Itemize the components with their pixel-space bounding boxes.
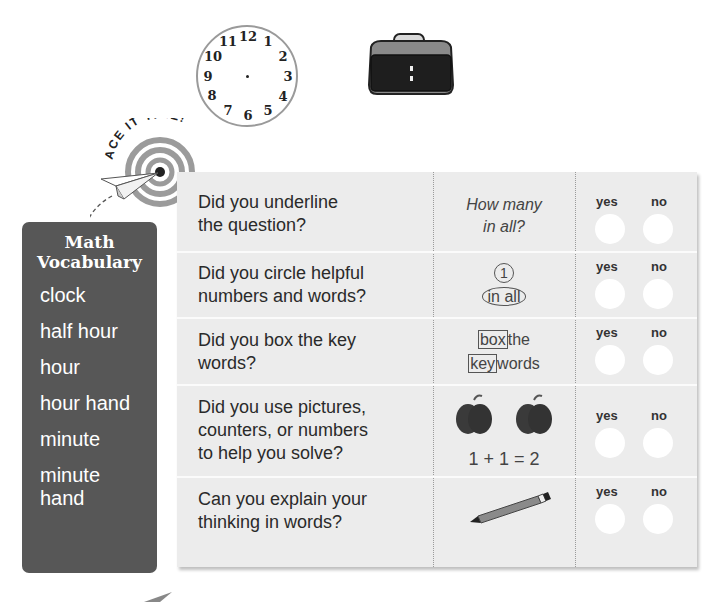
- digital-clock-icon: [365, 33, 457, 97]
- vocab-term-hour: hour: [40, 356, 157, 379]
- hint-example: How many in all?: [433, 194, 575, 238]
- digital-clock: [365, 33, 457, 97]
- hint-example: [433, 488, 575, 534]
- question-line: numbers and words?: [198, 285, 366, 308]
- no-circle[interactable]: [643, 214, 673, 244]
- yes-no-group: yes no: [575, 253, 697, 319]
- self-check-table: Did you underline the question? How many…: [177, 172, 697, 567]
- no-circle[interactable]: [643, 428, 673, 458]
- yes-circle[interactable]: [595, 428, 625, 458]
- question-line: thinking in words?: [198, 511, 367, 534]
- table-row: Can you explain your thinking in words? …: [177, 478, 697, 567]
- clock-center-dot: [246, 75, 249, 78]
- question-line: words?: [198, 352, 356, 375]
- no-circle[interactable]: [643, 345, 673, 375]
- yes-no-group: yes no: [575, 386, 697, 478]
- boxed-word: box: [478, 330, 508, 349]
- yes-no-group: yes no: [575, 319, 697, 386]
- hint-line: How many: [433, 194, 575, 216]
- yes-label: yes: [596, 484, 618, 499]
- question-text: Did you use pictures, counters, or numbe…: [198, 396, 368, 465]
- clock-numeral-8: 8: [203, 87, 221, 105]
- vocabulary-title-line2: Vocabulary: [22, 252, 157, 272]
- clock-numeral-9: 9: [199, 68, 217, 86]
- circled-words: in all: [482, 287, 527, 306]
- question-line: Did you underline: [198, 191, 338, 214]
- hint-word: the: [508, 331, 530, 348]
- table-row: Did you circle helpful numbers and words…: [177, 253, 697, 319]
- no-label: no: [651, 408, 667, 423]
- yes-label: yes: [596, 194, 618, 209]
- clock-numeral-6: 6: [239, 107, 257, 125]
- question-text: Can you explain your thinking in words?: [198, 488, 367, 534]
- no-label: no: [651, 325, 667, 340]
- vocab-term-minute: minute: [40, 428, 157, 451]
- circled-number: 1: [494, 263, 514, 283]
- equation: 1 + 1 = 2: [433, 448, 575, 470]
- vocabulary-title: Math Vocabulary: [22, 232, 157, 272]
- question-text: Did you box the key words?: [198, 329, 356, 375]
- vocabulary-title-line1: Math: [22, 232, 157, 252]
- no-circle[interactable]: [643, 504, 673, 534]
- question-line: Did you circle helpful: [198, 262, 366, 285]
- question-line: Did you use pictures,: [198, 396, 368, 419]
- clock-numeral-2: 2: [274, 48, 292, 66]
- question-line: counters, or numbers: [198, 419, 368, 442]
- table-row: Did you underline the question? How many…: [177, 172, 697, 253]
- hint-word: words: [497, 355, 540, 372]
- yes-circle[interactable]: [595, 504, 625, 534]
- yes-label: yes: [596, 408, 618, 423]
- question-line: Did you box the key: [198, 329, 356, 352]
- clock-numeral-12: 12: [239, 28, 257, 46]
- question-text: Did you circle helpful numbers and words…: [198, 262, 366, 308]
- question-line: to help you solve?: [198, 442, 368, 465]
- vocab-term-hour-hand: hour hand: [40, 392, 157, 415]
- boxed-word: key: [468, 354, 497, 373]
- hint-example: 1 + 1 = 2: [433, 392, 575, 470]
- no-circle[interactable]: [643, 279, 673, 309]
- apples-icon: [444, 392, 564, 440]
- yes-circle[interactable]: [595, 279, 625, 309]
- yes-no-group: yes no: [575, 172, 697, 253]
- question-line: Can you explain your: [198, 488, 367, 511]
- clock-numeral-5: 5: [259, 102, 277, 120]
- yes-circle[interactable]: [595, 214, 625, 244]
- hint-example: boxthe keywords: [433, 329, 575, 375]
- hint-example: 1 in all: [433, 262, 575, 308]
- clock-numeral-3: 3: [279, 68, 297, 86]
- yes-label: yes: [596, 259, 618, 274]
- question-line: the question?: [198, 214, 338, 237]
- yes-no-group: yes no: [575, 478, 697, 567]
- question-text: Did you underline the question?: [198, 191, 338, 237]
- vocab-term-clock: clock: [40, 284, 157, 307]
- hint-line: in all?: [433, 216, 575, 238]
- no-label: no: [651, 484, 667, 499]
- math-vocabulary-panel: Math Vocabulary clock half hour hour hou…: [22, 222, 157, 573]
- no-label: no: [651, 259, 667, 274]
- table-row: Did you box the key words? boxthe keywor…: [177, 319, 697, 386]
- analog-clock-face: 12 1 2 3 4 5 6 7 8 9 10 11: [196, 25, 298, 127]
- yes-circle[interactable]: [595, 345, 625, 375]
- clock-numeral-11: 11: [219, 33, 237, 51]
- yes-label: yes: [596, 325, 618, 340]
- pencil-icon: [454, 488, 554, 528]
- vocab-term-half-hour: half hour: [40, 320, 157, 343]
- vocab-term-minute-hand: minute hand: [40, 464, 130, 510]
- paper-plane-partial-icon: [140, 588, 180, 602]
- no-label: no: [651, 194, 667, 209]
- table-row: Did you use pictures, counters, or numbe…: [177, 386, 697, 478]
